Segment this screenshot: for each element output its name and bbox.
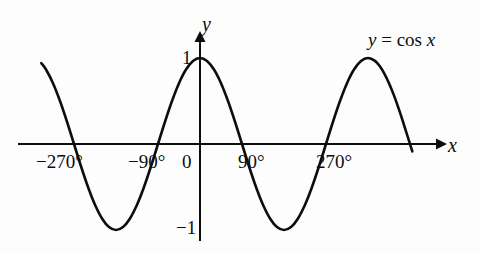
cosine-graph-figure: −270° −90° 0 90° 270° 1 −1 y x y = cos x bbox=[0, 0, 480, 253]
y-tick-label-one: 1 bbox=[182, 48, 192, 67]
x-tick-label-zero: 0 bbox=[182, 152, 192, 171]
y-axis bbox=[195, 31, 206, 241]
x-tick-label-270: 270° bbox=[316, 152, 352, 171]
x-axis-label: x bbox=[448, 135, 457, 155]
x-tick-label-minus270: −270° bbox=[36, 152, 83, 171]
x-axis bbox=[18, 139, 447, 150]
x-tick-label-minus90: −90° bbox=[128, 152, 165, 171]
y-axis-label: y bbox=[202, 14, 211, 34]
equation-variable: x bbox=[427, 29, 435, 50]
equation-annotation: y = cos x bbox=[368, 30, 435, 49]
equation-function: cos bbox=[397, 29, 422, 50]
equation-equals: = bbox=[381, 29, 392, 50]
x-axis-arrowhead bbox=[436, 139, 447, 150]
x-tick-label-90: 90° bbox=[238, 152, 265, 171]
y-tick-label-minus-one: −1 bbox=[176, 218, 196, 237]
